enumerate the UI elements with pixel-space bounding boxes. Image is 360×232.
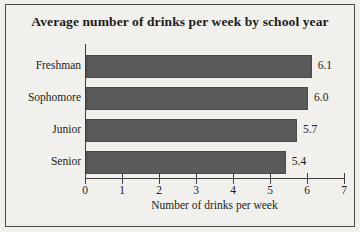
bar-sophomore	[86, 87, 308, 110]
x-axis-line	[85, 178, 344, 179]
bar-row: 5.7	[86, 119, 356, 142]
x-tick-mark	[344, 173, 345, 184]
x-tick-label: 1	[114, 184, 130, 196]
bar-freshman	[86, 55, 312, 78]
bar-value-junior: 5.7	[303, 123, 317, 135]
category-label-sophomore: Sophomore	[5, 91, 81, 103]
category-label-senior: Senior	[5, 155, 81, 167]
bar-value-senior: 5.4	[292, 155, 306, 167]
x-tick-mark	[85, 173, 86, 184]
x-tick-label: 0	[77, 184, 93, 196]
bar-junior	[86, 119, 297, 142]
chart-screenshot: Average number of drinks per week by sch…	[0, 0, 360, 232]
bar-row: 6.1	[86, 55, 356, 78]
x-tick-mark	[233, 173, 234, 184]
bar-value-freshman: 6.1	[318, 59, 332, 71]
bar-value-sophomore: 6.0	[314, 91, 328, 103]
x-tick-mark	[159, 173, 160, 184]
plot-area: Freshman Sophomore Junior Senior 6.1 6.0…	[0, 0, 360, 232]
category-label-freshman: Freshman	[5, 59, 81, 71]
x-tick-mark	[270, 173, 271, 184]
bar-senior	[86, 151, 286, 174]
x-tick-label: 4	[225, 184, 241, 196]
x-tick-label: 7	[336, 184, 352, 196]
x-tick-label: 2	[151, 184, 167, 196]
x-axis-title: Number of drinks per week	[85, 199, 344, 211]
x-tick-mark	[122, 173, 123, 184]
category-label-junior: Junior	[5, 123, 81, 135]
x-tick-label: 3	[188, 184, 204, 196]
bar-row: 5.4	[86, 151, 356, 174]
x-tick-label: 5	[262, 184, 278, 196]
x-tick-mark	[307, 173, 308, 184]
x-tick-label: 6	[299, 184, 315, 196]
x-tick-mark	[196, 173, 197, 184]
bar-row: 6.0	[86, 87, 356, 110]
